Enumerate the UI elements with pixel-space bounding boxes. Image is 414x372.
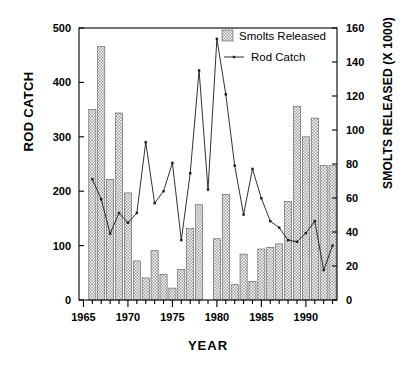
y-tick-label-right: 140 [346,56,364,68]
rod-catch-point [118,212,120,214]
rod-catch-point [216,38,218,40]
rod-catch-point [305,232,307,234]
rod-catch-point [251,168,253,170]
y-tick-label-left: 300 [53,131,71,143]
bar [160,275,167,301]
y-tick-label-right: 100 [346,124,364,136]
x-tick-label: 1980 [205,311,229,323]
bar [231,285,238,300]
rod-catch-point [171,162,173,164]
bar [240,254,247,300]
rod-catch-point [162,190,164,192]
bar [276,244,283,300]
rod-catch-point [100,198,102,200]
legend-label-rod: Rod Catch [251,51,305,63]
rod-catch-point [225,93,227,95]
bar [178,269,185,300]
x-tick-label: 1975 [160,311,184,323]
bar [142,278,149,300]
y-tick-label-right: 20 [346,260,358,272]
rod-catch-point [136,212,138,214]
legend-swatch-smolts [222,30,233,41]
rod-catch-point [242,213,244,215]
rod-catch-point [91,178,93,180]
rod-catch-point [278,226,280,228]
x-axis-title: YEAR [78,338,338,353]
y-axis-left-title: ROD CATCH [21,42,36,182]
y-tick-label-right: 40 [346,226,358,238]
rod-catch-point [314,220,316,222]
bar [285,201,292,300]
rod-catch-point [287,239,289,241]
bar [267,247,274,300]
rod-catch-point [180,239,182,241]
rod-catch-point [331,244,333,246]
rod-catch-point [127,222,129,224]
y-tick-label-right: 120 [346,90,364,102]
x-tick-label: 1985 [249,311,273,323]
bar [249,281,256,300]
bar [151,251,158,300]
legend-label-smolts: Smolts Released [239,30,326,42]
chart-figure: ROD CATCH SMOLTS RELEASED (X 1000) YEAR … [0,0,414,372]
bar [115,113,122,300]
bar [222,195,229,300]
bar [169,288,176,300]
y-tick-label-right: 160 [346,22,364,34]
bar [196,205,203,300]
bar [213,239,220,300]
bar [89,110,96,300]
chart-plot-area: 5004003002001000160140120100806040200196… [0,0,414,372]
bar-series-smolts-released [89,47,336,300]
y-axis-right-title: SMOLTS RELEASED (X 1000) [381,0,395,223]
bar [133,261,140,300]
bar [293,106,300,300]
bar [258,249,265,300]
rod-catch-point [109,232,111,234]
rod-catch-point [296,241,298,243]
y-tick-label-left: 100 [53,240,71,252]
rod-catch-point [322,269,324,271]
rod-catch-point [145,141,147,143]
bar [107,179,114,300]
y-tick-label-left: 0 [65,294,71,306]
bar [311,118,318,300]
rod-catch-point [189,172,191,174]
bar [187,229,194,300]
rod-catch-point [207,188,209,190]
rod-catch-point [269,220,271,222]
bar [124,193,131,300]
chart-legend: Smolts ReleasedRod Catch [222,30,326,64]
y-tick-label-right: 60 [346,192,358,204]
y-tick-label-right: 0 [346,294,352,306]
y-tick-label-left: 500 [53,22,71,34]
rod-catch-point [260,197,262,199]
bar [302,137,309,300]
y-tick-label-left: 200 [53,185,71,197]
x-tick-label: 1965 [71,311,95,323]
bar [320,166,327,300]
rod-catch-point [153,202,155,204]
x-tick-label: 1970 [116,311,140,323]
rod-catch-point [233,164,235,166]
y-tick-label-right: 80 [346,158,358,170]
x-tick-label: 1990 [294,311,318,323]
legend-marker-rod [233,56,235,58]
rod-catch-point [198,69,200,71]
bar [329,166,336,300]
bar [98,47,105,300]
y-tick-label-left: 400 [53,76,71,88]
